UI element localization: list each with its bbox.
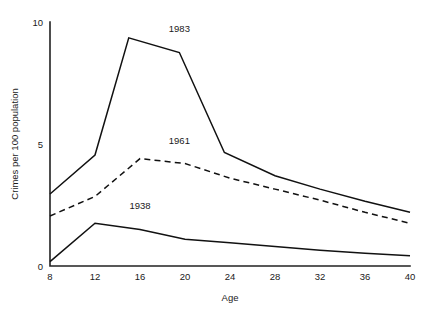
y-axis-title: Crimes per 100 population bbox=[9, 88, 20, 199]
x-axis-title: Age bbox=[222, 292, 239, 303]
line-chart-canvas: 81216202428323640 0510 198319611938 Age … bbox=[0, 0, 436, 311]
chart-figure: 81216202428323640 0510 198319611938 Age … bbox=[0, 0, 436, 311]
series-line-1938 bbox=[50, 223, 410, 261]
series-label-1938: 1938 bbox=[129, 200, 150, 211]
x-tick-20: 20 bbox=[180, 271, 191, 282]
axis-lines bbox=[50, 22, 410, 266]
y-tick-0: 0 bbox=[38, 261, 43, 272]
y-tick-10: 10 bbox=[32, 17, 43, 28]
x-axis-tick-labels: 81216202428323640 bbox=[47, 271, 415, 282]
x-tick-40: 40 bbox=[405, 271, 416, 282]
x-tick-8: 8 bbox=[47, 271, 52, 282]
series-label-1983: 1983 bbox=[169, 23, 190, 34]
series-line-1983 bbox=[50, 38, 410, 212]
y-axis-tick-labels: 0510 bbox=[32, 17, 43, 272]
series-label-1961: 1961 bbox=[169, 135, 190, 146]
y-tick-5: 5 bbox=[38, 139, 43, 150]
series-line-1961 bbox=[50, 159, 410, 224]
x-tick-32: 32 bbox=[315, 271, 326, 282]
x-tick-16: 16 bbox=[135, 271, 146, 282]
x-tick-12: 12 bbox=[90, 271, 101, 282]
x-tick-24: 24 bbox=[225, 271, 236, 282]
x-tick-28: 28 bbox=[270, 271, 281, 282]
series-annotations: 198319611938 bbox=[129, 23, 190, 211]
axes bbox=[50, 22, 410, 266]
x-tick-36: 36 bbox=[360, 271, 371, 282]
series-lines bbox=[50, 38, 410, 262]
